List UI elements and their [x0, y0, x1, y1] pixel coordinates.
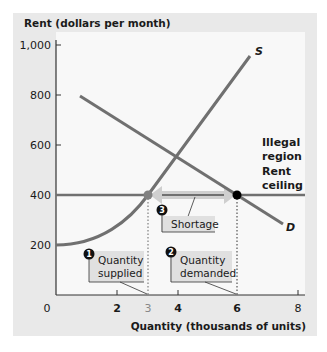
illegal-region-label-2: region	[262, 150, 302, 163]
x-tick-3: 3	[145, 302, 152, 315]
quantity-demanded-number: 2	[168, 248, 174, 257]
rent-ceiling-label-2: ceiling	[262, 179, 303, 192]
illegal-region-label-1: Illegal	[262, 136, 300, 149]
x-tick-4: 4	[174, 302, 182, 315]
x-tick-2: 2	[113, 302, 121, 315]
quantity-demanded-point	[233, 191, 242, 200]
x-tick-8: 8	[295, 302, 302, 315]
shortage-text: Shortage	[171, 218, 219, 230]
supply-label: S	[255, 45, 263, 58]
quantity-supplied-number: 1	[86, 250, 92, 259]
rent-ceiling-chart: Rent (dollars per month) 1,000 800 600 4…	[0, 0, 327, 352]
quantity-supplied-line1: Quantity	[98, 254, 143, 266]
y-tick-800: 800	[30, 89, 51, 102]
y-tick-400: 400	[30, 189, 51, 202]
quantity-supplied-line2: supplied	[98, 267, 142, 279]
x-tick-0: 0	[44, 302, 51, 315]
x-tick-6: 6	[233, 302, 241, 315]
y-axis-label: Rent (dollars per month)	[24, 17, 171, 29]
x-axis-label: Quantity (thousands of units)	[131, 320, 306, 332]
y-tick-1000: 1,000	[20, 39, 52, 52]
shortage-number: 3	[159, 206, 165, 215]
quantity-demanded-line1: Quantity	[180, 254, 225, 266]
y-tick-200: 200	[30, 239, 51, 252]
y-tick-600: 600	[30, 139, 51, 152]
quantity-supplied-point	[144, 191, 153, 200]
rent-ceiling-label-1: Rent	[262, 165, 291, 178]
quantity-demanded-line2: demanded	[180, 267, 236, 279]
demand-label: D	[286, 221, 295, 234]
